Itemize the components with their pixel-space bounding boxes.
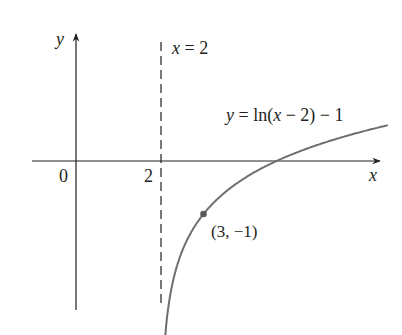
log-curve <box>165 125 388 335</box>
point-3-neg1 <box>200 211 207 218</box>
origin-label: 0 <box>59 166 68 186</box>
point-label: (3, −1) <box>211 222 257 241</box>
curve-equation-label: y = ln(x − 2) − 1 <box>224 105 343 126</box>
x-axis-label: x <box>368 165 377 185</box>
graph-figure: y x 0 2 x = 2 y = ln(x − 2) − 1 (3, −1) <box>0 0 402 335</box>
x-tick-2-label: 2 <box>144 166 153 186</box>
asymptote-label: x = 2 <box>171 38 208 58</box>
y-axis-label: y <box>54 29 64 49</box>
